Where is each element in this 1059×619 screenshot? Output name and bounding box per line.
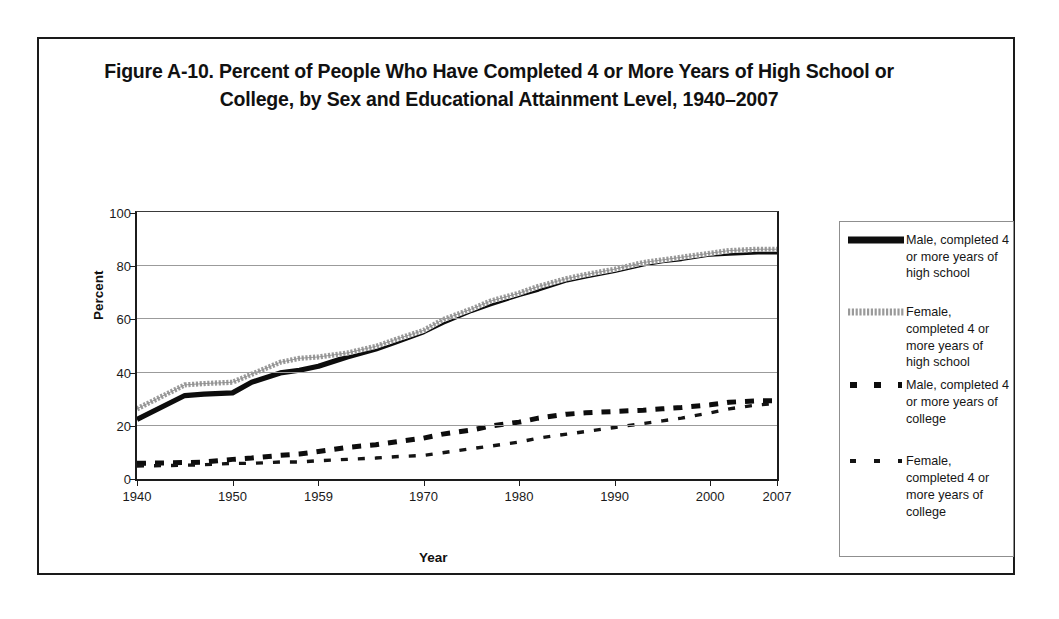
- y-tick-mark: [130, 266, 135, 267]
- x-tick-mark: [615, 481, 616, 486]
- y-tick-label: 40: [91, 365, 131, 380]
- x-tick-label: 1940: [107, 489, 167, 504]
- plot-area: [135, 211, 779, 481]
- x-tick-label: 2000: [680, 489, 740, 504]
- plot-wrapper: 0204060801001940195019591970198019902000…: [135, 211, 779, 481]
- gridline: [137, 372, 777, 373]
- legend: Male, completed 4 or more years of high …: [839, 221, 1014, 557]
- series-line: [137, 401, 777, 464]
- legend-swatch-icon: [848, 233, 904, 249]
- x-tick-label: 1950: [203, 489, 263, 504]
- y-tick-label: 100: [91, 206, 131, 221]
- y-tick-mark: [130, 213, 135, 214]
- legend-entry[interactable]: Male, completed 4 or more years of colle…: [840, 377, 1013, 427]
- legend-entry[interactable]: Female, completed 4 or more years of col…: [840, 453, 1013, 520]
- x-tick-mark: [424, 481, 425, 486]
- y-tick-mark: [130, 426, 135, 427]
- y-tick-mark: [130, 479, 135, 480]
- legend-swatch-icon: [848, 454, 904, 470]
- x-tick-mark: [137, 481, 138, 486]
- y-tick-mark: [130, 319, 135, 320]
- x-tick-label: 1959: [288, 489, 348, 504]
- x-tick-label: 1980: [489, 489, 549, 504]
- gridline: [137, 318, 777, 319]
- legend-entry[interactable]: Female, completed 4 or more years of hig…: [840, 304, 1013, 371]
- legend-label: Male, completed 4 or more years of colle…: [906, 377, 1010, 427]
- x-tick-label: 1990: [585, 489, 645, 504]
- legend-swatch-icon: [848, 378, 904, 394]
- series-line-edge: [137, 249, 777, 409]
- y-tick-label: 80: [91, 259, 131, 274]
- gridline: [137, 265, 777, 266]
- y-tick-label: 20: [91, 418, 131, 433]
- figure-title: Figure A-10. Percent of People Who Have …: [99, 57, 899, 114]
- legend-entry[interactable]: Male, completed 4 or more years of high …: [840, 232, 1013, 282]
- legend-label: Female, completed 4 or more years of col…: [906, 453, 1010, 520]
- legend-label: Male, completed 4 or more years of high …: [906, 232, 1010, 282]
- y-tick-label: 60: [91, 312, 131, 327]
- gridline: [137, 425, 777, 426]
- x-tick-mark: [710, 481, 711, 486]
- x-tick-mark: [777, 481, 778, 486]
- series-line: [137, 404, 777, 467]
- series-line: [137, 249, 777, 409]
- legend-label: Female, completed 4 or more years of hig…: [906, 304, 1010, 371]
- x-tick-mark: [233, 481, 234, 486]
- legend-swatch-icon: [848, 305, 904, 321]
- series-layer: [137, 212, 777, 478]
- series-line-underlay: [137, 249, 777, 409]
- y-tick-label: 0: [91, 472, 131, 487]
- x-tick-mark: [519, 481, 520, 486]
- x-tick-label: 2007: [747, 489, 807, 504]
- series-line: [137, 252, 777, 420]
- figure-frame: Figure A-10. Percent of People Who Have …: [37, 37, 1015, 575]
- x-tick-mark: [318, 481, 319, 486]
- x-axis-label: Year: [419, 550, 448, 565]
- y-tick-mark: [130, 373, 135, 374]
- x-tick-label: 1970: [394, 489, 454, 504]
